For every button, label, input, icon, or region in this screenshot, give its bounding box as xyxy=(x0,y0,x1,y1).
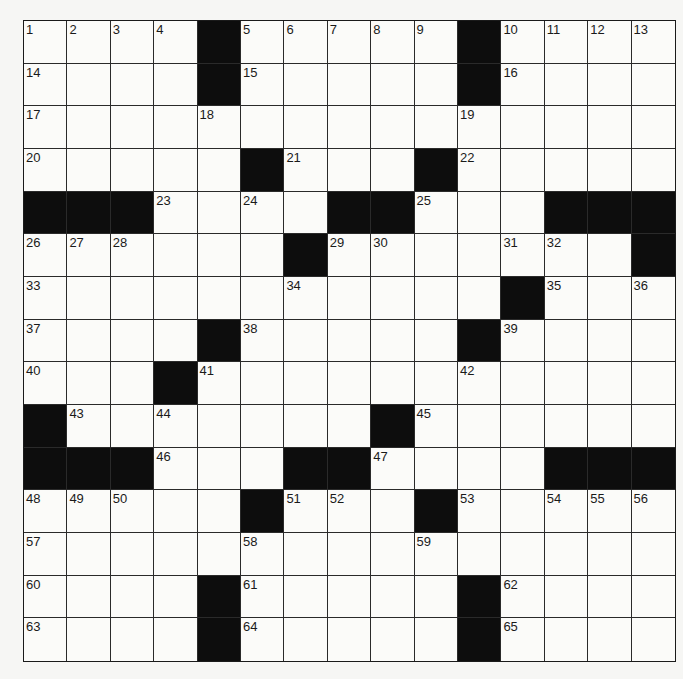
grid-cell[interactable] xyxy=(371,320,414,363)
grid-cell[interactable] xyxy=(111,533,154,576)
grid-cell[interactable] xyxy=(111,64,154,107)
grid-cell[interactable]: 4 xyxy=(154,21,197,64)
grid-cell[interactable] xyxy=(67,106,110,149)
grid-cell[interactable] xyxy=(632,362,675,405)
grid-cell[interactable]: 17 xyxy=(24,106,67,149)
grid-cell[interactable] xyxy=(328,618,371,661)
grid-cell[interactable] xyxy=(198,490,241,533)
grid-cell[interactable] xyxy=(588,234,631,277)
grid-cell[interactable]: 27 xyxy=(67,234,110,277)
grid-cell[interactable] xyxy=(545,533,588,576)
grid-cell[interactable] xyxy=(458,405,501,448)
grid-cell[interactable]: 3 xyxy=(111,21,154,64)
grid-cell[interactable] xyxy=(154,277,197,320)
grid-cell[interactable] xyxy=(111,405,154,448)
grid-cell[interactable] xyxy=(154,576,197,619)
grid-cell[interactable]: 2 xyxy=(67,21,110,64)
grid-cell[interactable] xyxy=(545,618,588,661)
grid-cell[interactable] xyxy=(111,149,154,192)
grid-cell[interactable] xyxy=(588,64,631,107)
grid-cell[interactable]: 43 xyxy=(67,405,110,448)
grid-cell[interactable] xyxy=(284,64,327,107)
grid-cell[interactable] xyxy=(415,277,458,320)
grid-cell[interactable]: 28 xyxy=(111,234,154,277)
grid-cell[interactable]: 13 xyxy=(632,21,675,64)
grid-cell[interactable] xyxy=(284,405,327,448)
grid-cell[interactable]: 39 xyxy=(501,320,544,363)
grid-cell[interactable] xyxy=(284,320,327,363)
grid-cell[interactable] xyxy=(198,533,241,576)
grid-cell[interactable] xyxy=(415,362,458,405)
grid-cell[interactable]: 19 xyxy=(458,106,501,149)
grid-cell[interactable]: 40 xyxy=(24,362,67,405)
grid-cell[interactable] xyxy=(241,405,284,448)
grid-cell[interactable] xyxy=(154,533,197,576)
grid-cell[interactable] xyxy=(328,149,371,192)
grid-cell[interactable] xyxy=(67,362,110,405)
grid-cell[interactable]: 38 xyxy=(241,320,284,363)
grid-cell[interactable] xyxy=(545,362,588,405)
grid-cell[interactable] xyxy=(371,64,414,107)
grid-cell[interactable] xyxy=(545,106,588,149)
grid-cell[interactable]: 59 xyxy=(415,533,458,576)
grid-cell[interactable] xyxy=(328,362,371,405)
grid-cell[interactable] xyxy=(545,64,588,107)
grid-cell[interactable] xyxy=(111,320,154,363)
grid-cell[interactable] xyxy=(284,192,327,235)
grid-cell[interactable] xyxy=(501,490,544,533)
grid-cell[interactable] xyxy=(588,106,631,149)
grid-cell[interactable] xyxy=(501,362,544,405)
grid-cell[interactable] xyxy=(415,234,458,277)
grid-cell[interactable] xyxy=(241,362,284,405)
grid-cell[interactable] xyxy=(415,448,458,491)
grid-cell[interactable] xyxy=(371,149,414,192)
grid-cell[interactable] xyxy=(198,149,241,192)
grid-cell[interactable] xyxy=(545,405,588,448)
grid-cell[interactable] xyxy=(67,618,110,661)
grid-cell[interactable]: 15 xyxy=(241,64,284,107)
grid-cell[interactable] xyxy=(415,320,458,363)
grid-cell[interactable]: 62 xyxy=(501,576,544,619)
grid-cell[interactable]: 21 xyxy=(284,149,327,192)
grid-cell[interactable] xyxy=(371,490,414,533)
grid-cell[interactable] xyxy=(67,533,110,576)
grid-cell[interactable] xyxy=(198,192,241,235)
grid-cell[interactable] xyxy=(284,576,327,619)
grid-cell[interactable] xyxy=(67,149,110,192)
grid-cell[interactable] xyxy=(588,320,631,363)
grid-cell[interactable] xyxy=(632,405,675,448)
grid-cell[interactable] xyxy=(67,320,110,363)
grid-cell[interactable]: 22 xyxy=(458,149,501,192)
grid-cell[interactable]: 61 xyxy=(241,576,284,619)
grid-cell[interactable]: 57 xyxy=(24,533,67,576)
grid-cell[interactable]: 45 xyxy=(415,405,458,448)
grid-cell[interactable] xyxy=(458,234,501,277)
grid-cell[interactable] xyxy=(154,149,197,192)
grid-cell[interactable]: 24 xyxy=(241,192,284,235)
grid-cell[interactable]: 31 xyxy=(501,234,544,277)
grid-cell[interactable] xyxy=(458,192,501,235)
grid-cell[interactable]: 58 xyxy=(241,533,284,576)
grid-cell[interactable]: 33 xyxy=(24,277,67,320)
grid-cell[interactable] xyxy=(111,362,154,405)
grid-cell[interactable] xyxy=(284,533,327,576)
grid-cell[interactable] xyxy=(588,533,631,576)
grid-cell[interactable]: 11 xyxy=(545,21,588,64)
grid-cell[interactable] xyxy=(328,405,371,448)
grid-cell[interactable] xyxy=(328,320,371,363)
grid-cell[interactable] xyxy=(632,64,675,107)
grid-cell[interactable]: 34 xyxy=(284,277,327,320)
grid-cell[interactable] xyxy=(632,618,675,661)
grid-cell[interactable] xyxy=(154,320,197,363)
grid-cell[interactable] xyxy=(632,149,675,192)
grid-cell[interactable]: 52 xyxy=(328,490,371,533)
grid-cell[interactable] xyxy=(328,106,371,149)
grid-cell[interactable] xyxy=(458,277,501,320)
grid-cell[interactable] xyxy=(111,277,154,320)
grid-cell[interactable]: 55 xyxy=(588,490,631,533)
grid-cell[interactable] xyxy=(241,448,284,491)
grid-cell[interactable] xyxy=(632,320,675,363)
grid-cell[interactable] xyxy=(154,234,197,277)
grid-cell[interactable] xyxy=(198,277,241,320)
grid-cell[interactable]: 18 xyxy=(198,106,241,149)
